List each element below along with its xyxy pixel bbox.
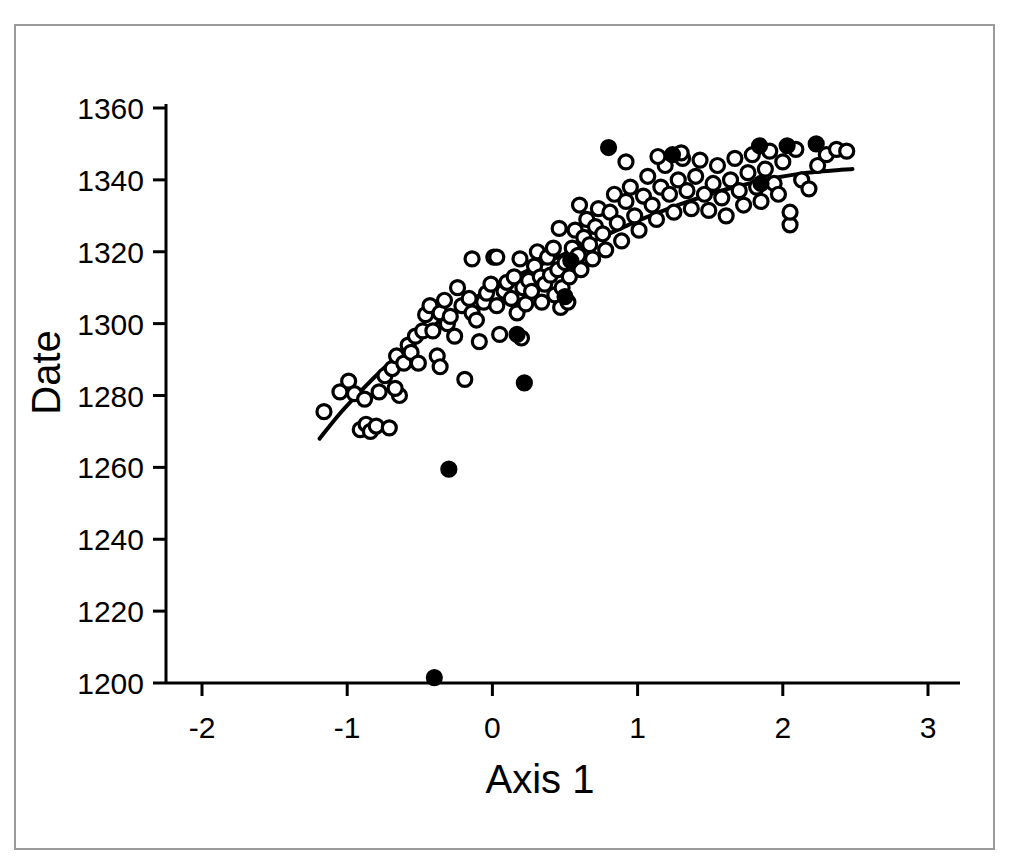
data-point [433,360,447,374]
data-point [493,327,507,341]
data-point [552,221,566,235]
data-point [388,381,402,395]
data-point [462,291,476,305]
data-point [372,385,386,399]
y-tick-label: 1360 [77,92,144,125]
data-point [615,234,629,248]
data-point [663,187,677,201]
data-point [684,202,698,216]
x-tick-label: 3 [920,711,937,744]
data-point [427,671,441,685]
data-point [602,141,616,155]
data-point [458,372,472,386]
data-point [510,327,524,341]
data-point [382,421,396,435]
data-point [632,223,646,237]
figure-container: 120012201240126012801300132013401360-2-1… [0,0,1010,867]
y-tick-label: 1280 [77,380,144,413]
data-point [448,329,462,343]
data-point [504,291,518,305]
data-point [641,169,655,183]
data-point [758,162,772,176]
data-point [754,194,768,208]
x-tick-label: -1 [334,711,361,744]
x-axis-title: Axis 1 [330,757,750,802]
data-point [465,252,479,266]
data-point [596,227,610,241]
scatter-plot: 120012201240126012801300132013401360-2-1… [0,0,1010,867]
x-tick-label: 0 [484,711,501,744]
data-point [732,184,746,198]
data-point [667,205,681,219]
data-point [741,166,755,180]
data-point [753,139,767,153]
data-point [619,194,633,208]
data-point [702,203,716,217]
series-filled-circles [427,137,823,685]
data-point [719,209,733,223]
x-tick-label: 1 [629,711,646,744]
x-tick-label: 2 [774,711,791,744]
data-point [737,198,751,212]
data-point [490,299,504,313]
data-point [586,252,600,266]
data-point [610,216,624,230]
x-tick-label: -2 [189,711,216,744]
data-point [317,405,331,419]
y-tick-label: 1340 [77,164,144,197]
data-point [411,356,425,370]
data-point [628,209,642,223]
data-point [710,159,724,173]
y-tick-label: 1200 [77,667,144,700]
data-point [513,252,527,266]
data-point [564,254,578,268]
data-point [517,376,531,390]
data-point [776,155,790,169]
data-point [715,191,729,205]
data-point [680,184,694,198]
data-point [583,238,597,252]
data-point [728,151,742,165]
data-point [426,324,440,338]
data-point [802,182,816,196]
data-point [443,309,457,323]
data-point [645,198,659,212]
data-point [558,290,572,304]
y-tick-label: 1220 [77,595,144,628]
series-open-circles [317,142,854,438]
data-point [358,392,372,406]
data-point [472,335,486,349]
data-point [573,198,587,212]
data-point [840,144,854,158]
data-point [649,212,663,226]
data-point [809,137,823,151]
data-point [706,176,720,190]
y-tick-label: 1300 [77,308,144,341]
data-point [619,155,633,169]
data-point [442,462,456,476]
data-point [783,205,797,219]
data-point [623,180,637,194]
data-point [490,250,504,264]
data-point [651,150,665,164]
data-point [469,313,483,327]
data-point [689,169,703,183]
data-point [599,243,613,257]
y-tick-label: 1240 [77,523,144,556]
data-point [693,153,707,167]
y-tick-label: 1320 [77,236,144,269]
data-point [437,293,451,307]
data-point [546,241,560,255]
y-tick-label: 1260 [77,451,144,484]
data-point [754,176,768,190]
data-point [665,148,679,162]
data-point [780,139,794,153]
y-axis-title: Date [24,273,69,473]
data-point [451,281,465,295]
data-point [771,187,785,201]
